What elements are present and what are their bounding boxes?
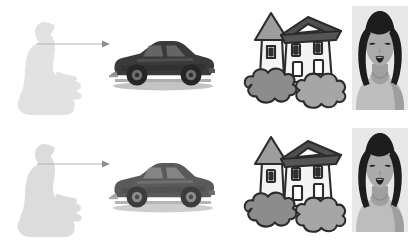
illustration-panel [0,0,412,249]
sequence-row-bottom [0,124,412,248]
house-cell-bottom [236,124,351,248]
woman-cell-top [348,0,412,124]
gaze-arrow-right-icon [36,34,112,54]
observer-cell-top [0,0,120,124]
house-with-tower-icon [240,128,352,236]
house-cell-top [236,0,351,124]
car-cell-bottom [105,124,220,248]
woman-cell-bottom [348,124,412,248]
observer-cell-bottom [0,124,120,248]
house-with-tower-icon [240,4,352,112]
smiling-woman-portrait-icon [352,128,408,232]
sports-car-icon [107,30,219,94]
smiling-woman-portrait-icon [352,6,408,110]
seated-person-silhouette-icon [14,136,98,244]
car-cell-top [105,0,220,124]
gaze-arrow-right-icon [36,154,112,174]
sequence-row-top [0,0,412,124]
seated-person-silhouette-icon [14,14,98,122]
sports-car-icon [107,152,219,216]
